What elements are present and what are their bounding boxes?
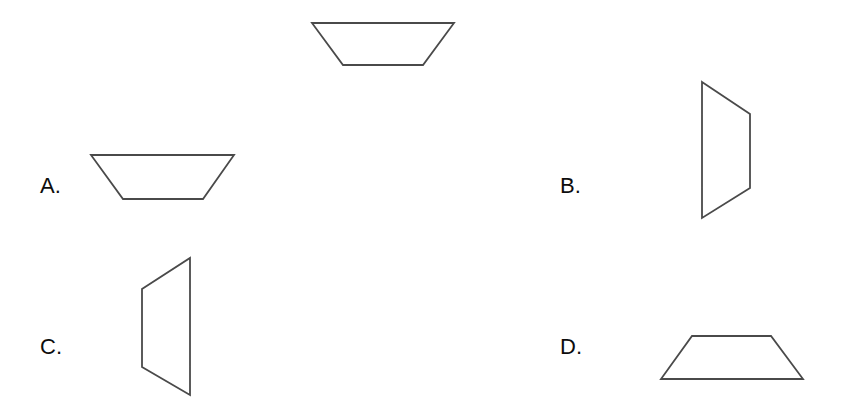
shapes-canvas xyxy=(0,0,845,415)
option-label-c[interactable]: C. xyxy=(40,336,62,358)
option-label-b[interactable]: B. xyxy=(560,175,581,197)
option-d-shape[interactable] xyxy=(661,336,803,379)
worksheet-page: A. B. C. D. xyxy=(0,0,845,415)
option-a-shape[interactable] xyxy=(91,155,234,199)
option-b-shape[interactable] xyxy=(702,82,750,218)
option-label-a[interactable]: A. xyxy=(40,175,61,197)
option-label-d[interactable]: D. xyxy=(560,336,582,358)
reference-trapezoid xyxy=(312,23,454,65)
option-c-shape[interactable] xyxy=(142,258,190,395)
